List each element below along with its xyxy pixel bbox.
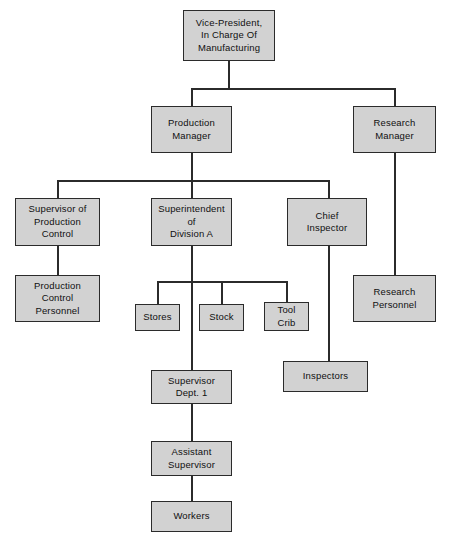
node-production-manager-label: Production Manager [166, 117, 217, 142]
node-assistant-supervisor-label: Assistant Supervisor [166, 446, 217, 471]
node-assistant-supervisor[interactable]: Assistant Supervisor [151, 441, 232, 476]
node-production-control-personnel[interactable]: Production Control Personnel [15, 275, 100, 322]
node-stock[interactable]: Stock [199, 304, 244, 331]
connector-superintendent-main-stem [191, 246, 193, 370]
node-research-personnel[interactable]: Research Personnel [353, 275, 436, 322]
connector-research-manager-to-research-personnel [394, 153, 396, 275]
node-workers[interactable]: Workers [151, 501, 232, 532]
node-workers-label: Workers [171, 510, 211, 523]
connector-to-stores [157, 281, 159, 304]
node-chief-inspector[interactable]: Chief Inspector [287, 198, 367, 246]
connector-chief-inspector-to-inspectors [328, 246, 330, 361]
node-inspectors[interactable]: Inspectors [283, 361, 368, 392]
node-supervisor-dept-1-label: Supervisor Dept. 1 [166, 375, 217, 400]
node-supervisor-production-control-label: Supervisor of Production Control [27, 203, 89, 241]
connector-vp-bar [191, 88, 395, 90]
node-research-personnel-label: Research Personnel [370, 286, 418, 311]
connector-to-chief-inspector [328, 180, 330, 199]
connector-to-tool-crib [286, 281, 288, 302]
node-vice-president-label: Vice-President, In Charge Of Manufacturi… [194, 17, 265, 55]
connector-vp-to-research-manager [394, 88, 396, 107]
node-production-control-personnel-label: Production Control Personnel [32, 280, 83, 318]
node-tool-crib[interactable]: Tool Crib [264, 302, 309, 331]
org-chart: Vice-President, In Charge Of Manufacturi… [0, 0, 451, 546]
node-tool-crib-label: Tool Crib [275, 304, 297, 329]
connector-vp-stem [228, 61, 230, 89]
node-superintendent-division-a-label: Superintendent of Division A [156, 203, 227, 241]
node-stores[interactable]: Stores [135, 304, 180, 331]
node-research-manager-label: Research Manager [372, 117, 418, 142]
node-research-manager[interactable]: Research Manager [353, 106, 436, 153]
connector-to-supervisor-production-control [57, 180, 59, 199]
node-stock-label: Stock [207, 311, 236, 324]
node-inspectors-label: Inspectors [301, 370, 350, 383]
connector-supervisor-to-production-control-personnel [57, 246, 59, 275]
connector-assistant-supervisor-to-workers [191, 476, 193, 501]
node-chief-inspector-label: Chief Inspector [305, 210, 349, 235]
connector-supervisor-dept-1-to-assistant-supervisor [191, 404, 193, 441]
node-superintendent-division-a[interactable]: Superintendent of Division A [151, 198, 232, 246]
node-supervisor-production-control[interactable]: Supervisor of Production Control [15, 198, 100, 246]
node-stores-label: Stores [141, 311, 173, 324]
connector-production-manager-bar [57, 180, 329, 182]
connector-production-manager-stem [191, 153, 193, 181]
node-supervisor-dept-1[interactable]: Supervisor Dept. 1 [151, 370, 232, 404]
connector-to-stock [221, 281, 223, 304]
connector-vp-to-production-manager [191, 88, 193, 107]
connector-to-superintendent-division-a [191, 180, 193, 199]
node-vice-president[interactable]: Vice-President, In Charge Of Manufacturi… [183, 10, 275, 61]
node-production-manager[interactable]: Production Manager [151, 106, 232, 153]
